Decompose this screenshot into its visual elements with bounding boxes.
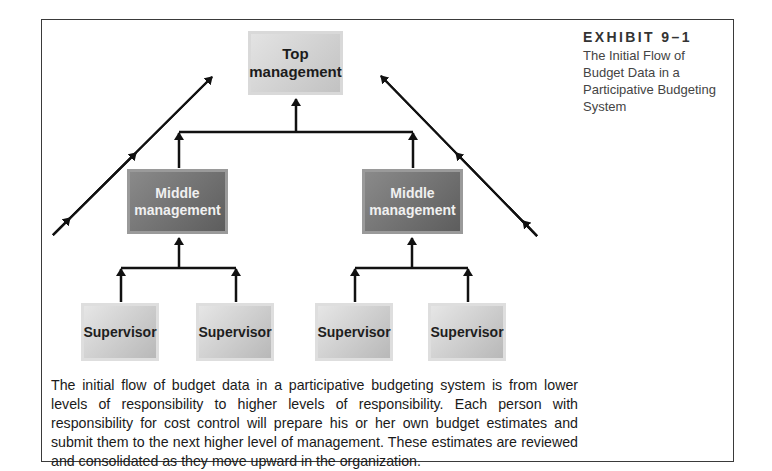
diagram-caption: The initial flow of budget data in a par… [51,376,578,471]
middle-management-label: Middle management [365,185,460,219]
middle-management-label: Middle management [130,185,225,219]
supervisor-box: Supervisor [428,303,506,361]
supervisor-label: Supervisor [430,324,503,341]
exhibit-number: EXHIBIT 9–1 [583,29,692,45]
supervisor-label: Supervisor [198,324,271,341]
top-management-box: Top management [248,31,343,95]
middle-management-box-right: Middle management [362,169,463,234]
supervisor-label: Supervisor [317,324,390,341]
supervisor-label: Supervisor [83,324,156,341]
exhibit-title: The Initial Flow of Budget Data in a Par… [583,47,723,115]
supervisor-box: Supervisor [196,303,274,361]
middle-management-box-left: Middle management [127,169,228,234]
supervisor-box: Supervisor [315,303,393,361]
supervisor-box: Supervisor [81,303,159,361]
top-management-label: Top management [249,45,342,81]
